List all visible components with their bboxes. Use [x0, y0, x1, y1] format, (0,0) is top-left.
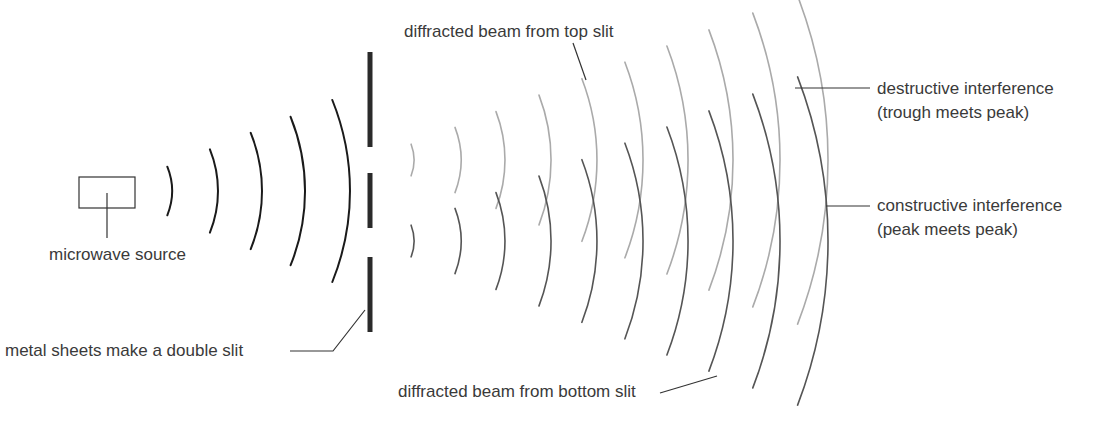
bottom-slit-wavefront: [709, 111, 733, 371]
bottom-slit-wavefront: [539, 176, 551, 306]
bottom-slit-wavefront: [455, 208, 461, 273]
source-label: microwave source: [49, 245, 186, 265]
incident-wavefront: [332, 100, 350, 282]
destructive-label: destructive interference: [877, 79, 1054, 99]
top-beam-label: diffracted beam from top slit: [404, 22, 613, 42]
metal-sheet-barrier: [368, 52, 373, 332]
bottom-slit-wavefront: [496, 193, 505, 290]
bottom-slit-wavefront: [625, 143, 643, 339]
top-slit-wavefront: [455, 127, 461, 192]
destructive-sublabel: (trough meets peak): [877, 103, 1029, 123]
slit-leader: [290, 310, 365, 351]
double-slit-diagram: microwave source metal sheets make a dou…: [0, 0, 1104, 423]
top-slit-wavefront: [798, 0, 828, 324]
top-slit-wavefront: [411, 144, 414, 176]
bottom-slit-wavefronts: [411, 77, 828, 405]
constructive-sublabel: (peak meets peak): [877, 220, 1018, 240]
top-slit-wavefront: [539, 95, 551, 225]
top-slit-wavefront: [709, 30, 733, 290]
top-slit-wavefront: [753, 13, 780, 307]
bottom-beam-label: diffracted beam from bottom slit: [398, 382, 636, 402]
incident-wavefronts: [167, 100, 350, 282]
metal-sheet: [368, 52, 373, 147]
bottom-slit-wavefront: [411, 225, 414, 257]
constructive-label: constructive interference: [877, 196, 1062, 216]
top-slit-wavefront: [496, 112, 505, 209]
incident-wavefront: [251, 133, 262, 249]
top-slit-wavefront: [625, 62, 643, 258]
bottom-slit-wavefront: [582, 160, 597, 323]
metal-sheet: [368, 173, 373, 228]
slit-label: metal sheets make a double slit: [5, 341, 243, 361]
top-slit-wavefront: [582, 79, 597, 242]
metal-sheet: [368, 257, 373, 332]
top-beam-leader: [573, 43, 586, 80]
incident-wavefront: [167, 167, 172, 216]
bottom-slit-wavefront: [798, 77, 828, 405]
incident-wavefront: [291, 117, 305, 265]
top-slit-wavefronts: [411, 0, 828, 324]
bottom-beam-leader: [660, 376, 717, 393]
bottom-slit-wavefront: [753, 94, 780, 388]
incident-wavefront: [210, 149, 218, 232]
